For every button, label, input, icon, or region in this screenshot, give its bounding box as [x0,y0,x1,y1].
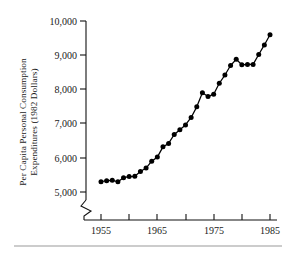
x-tick-label-1985: 1985 [260,225,280,236]
data-point [132,174,137,179]
data-point [155,155,160,160]
data-point [251,62,256,67]
data-point [189,115,194,120]
line-chart: Per Capita Personal Consumption Expendit… [0,0,296,254]
data-point [234,57,239,62]
x-tick-label-1975: 1975 [204,225,224,236]
y-axis-ticks [80,21,86,192]
data-point [121,175,126,180]
data-point [149,159,154,164]
x-axis-tick-labels: 1955 1965 1975 1985 [91,225,280,236]
data-point [194,104,199,109]
x-tick-label-1965: 1965 [147,225,167,236]
y-tick-label-6000: 6,000 [55,153,78,164]
data-point [144,166,149,171]
data-point [138,169,143,174]
y-tick-label-10000: 10,000 [50,16,78,27]
data-point [256,52,261,57]
y-tick-label-9000: 9,000 [55,50,78,61]
data-point [177,127,182,132]
data-point [206,94,211,99]
data-point [110,178,115,183]
y-tick-label-5000: 5,000 [55,187,78,198]
series-line [101,35,270,182]
data-point [104,178,109,183]
data-point [222,73,227,78]
data-point [268,32,273,37]
x-axis-ticks [101,214,270,220]
data-point [115,179,120,184]
data-point [245,62,250,67]
y-axis-title-line2: Expenditures (1982 Dollars) [29,68,39,175]
data-point [211,92,216,97]
y-tick-label-8000: 8,000 [55,84,78,95]
data-point [127,174,132,179]
y-axis-tick-labels: 10,000 9,000 8,000 7,000 6,000 5,000 [50,16,78,198]
data-point [262,42,267,47]
y-tick-label-7000: 7,000 [55,118,78,129]
data-point [239,62,244,67]
data-point [200,90,205,95]
y-axis-break-icon [81,200,91,220]
data-point [228,63,233,68]
series-markers [99,32,273,184]
y-axis-title-line1: Per Capita Personal Consumption [18,58,28,186]
x-tick-label-1955: 1955 [91,225,111,236]
data-point [99,179,104,184]
data-point [160,144,165,149]
data-point [183,122,188,127]
data-point [166,141,171,146]
chart-figure: Per Capita Personal Consumption Expendit… [0,0,296,254]
data-point [217,81,222,86]
data-point [172,132,177,137]
y-axis-title: Per Capita Personal Consumption Expendit… [18,58,39,186]
